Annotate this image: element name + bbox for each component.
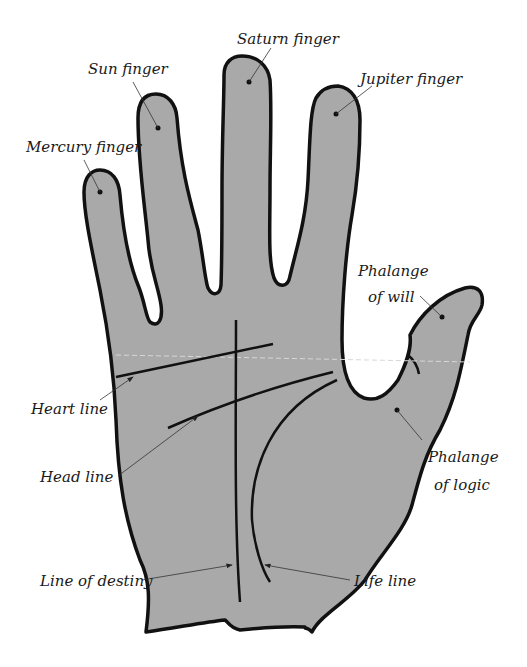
- label-jupiter-finger: Jupiter finger: [357, 70, 463, 88]
- hand-outline: [84, 56, 482, 632]
- label-saturn-finger: Saturn finger: [237, 30, 340, 48]
- label-line-of-destiny: Line of destiny: [39, 572, 153, 590]
- label-phalange-will-2: of will: [368, 288, 415, 306]
- label-head-line: Head line: [39, 468, 114, 486]
- label-mercury-finger: Mercury finger: [25, 138, 142, 156]
- label-phalange-logic-1: Phalange: [427, 448, 499, 466]
- label-heart-line: Heart line: [30, 400, 108, 418]
- label-life-line: Life line: [353, 572, 416, 590]
- label-phalange-logic-2: of logic: [434, 476, 491, 494]
- hand-diagram: Saturn finger Sun finger Jupiter finger …: [0, 0, 527, 667]
- label-sun-finger: Sun finger: [88, 60, 169, 78]
- label-phalange-will-1: Phalange: [357, 262, 429, 280]
